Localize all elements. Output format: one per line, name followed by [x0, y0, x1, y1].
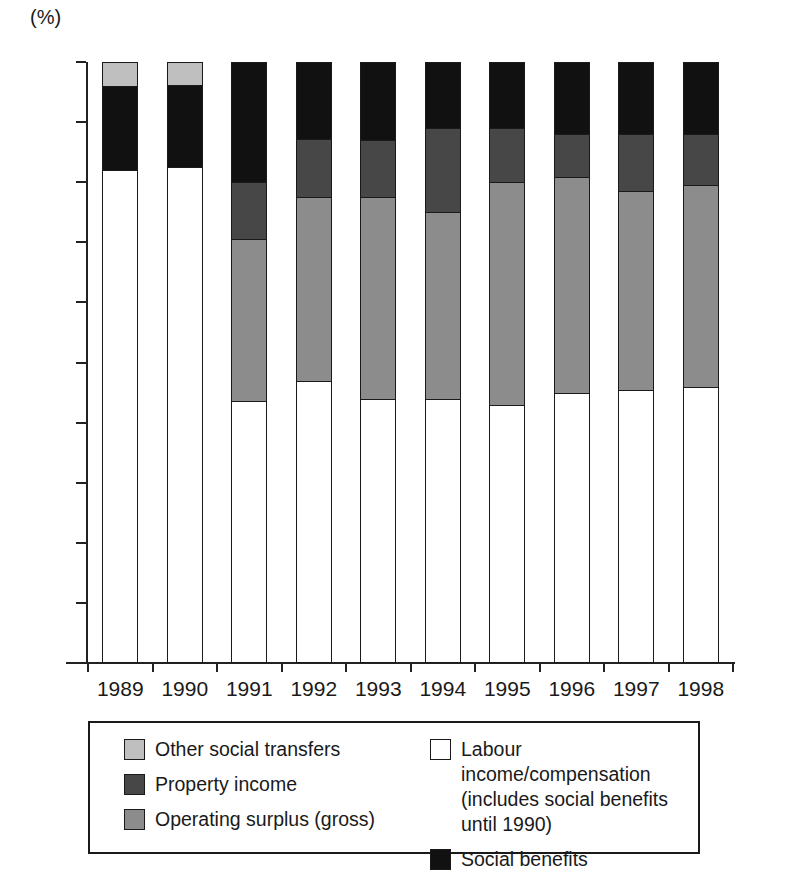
legend-label-social_benefits: Social benefits — [461, 847, 588, 872]
legend-column-left: Other social transfersProperty incomeOpe… — [124, 737, 404, 842]
y-axis-unit-label: (%) — [30, 6, 61, 29]
legend-entry-labour_income: Labour income/compensation (includes soc… — [430, 737, 692, 837]
bar-segment — [683, 134, 719, 185]
y-axis-tick-mark — [76, 362, 86, 364]
bar-group — [102, 62, 138, 663]
legend-label-property_income: Property income — [155, 772, 297, 797]
bar-segment — [360, 399, 396, 663]
bar-segment — [618, 390, 654, 663]
x-axis-tick-label: 1998 — [656, 676, 746, 702]
bar-segment — [683, 185, 719, 386]
bar-segment — [618, 191, 654, 389]
bar-group — [489, 62, 525, 663]
bar-segment — [360, 197, 396, 398]
bar-group — [683, 62, 719, 663]
x-axis-tick-mark — [732, 662, 734, 672]
bar-group — [296, 62, 332, 663]
bar-segment — [167, 85, 203, 167]
y-axis-tick-mark — [76, 422, 86, 424]
bar-segment — [102, 62, 138, 86]
bar-segment — [489, 405, 525, 663]
y-axis-tick-mark — [76, 662, 86, 664]
y-axis-tick-mark — [76, 301, 86, 303]
legend-entry-operating_surplus: Operating surplus (gross) — [124, 807, 404, 832]
x-axis-tick-mark — [281, 662, 283, 672]
legend-swatch-labour_income — [430, 739, 451, 760]
x-axis-tick-mark — [152, 662, 154, 672]
stacked-bar-chart: (%) 1009080706050403020100 1989199019911… — [0, 0, 789, 880]
bar-segment — [231, 401, 267, 663]
bar-group — [167, 62, 203, 663]
bar-segment — [489, 128, 525, 182]
bar-segment — [489, 62, 525, 128]
bar-segment — [231, 182, 267, 239]
x-axis-tick-mark — [345, 662, 347, 672]
bar-segment — [554, 177, 590, 392]
bar-segment — [296, 381, 332, 663]
bar-segment — [618, 134, 654, 191]
legend-entry-social_benefits: Social benefits — [430, 847, 692, 872]
legend-label-other_social_transfers: Other social transfers — [155, 737, 340, 762]
bar-segment — [296, 62, 332, 139]
legend-column-right: Labour income/compensation (includes soc… — [430, 737, 692, 880]
y-axis-tick-mark — [76, 181, 86, 183]
legend-swatch-property_income — [124, 774, 145, 795]
bar-segment — [167, 62, 203, 85]
bar-group — [618, 62, 654, 663]
bar-segment — [425, 128, 461, 212]
legend-swatch-social_benefits — [430, 849, 451, 870]
bar-group — [231, 62, 267, 663]
x-axis-tick-mark — [474, 662, 476, 672]
bar-segment — [554, 134, 590, 177]
bar-segment — [102, 170, 138, 663]
bar-segment — [618, 62, 654, 134]
bar-segment — [296, 139, 332, 197]
bar-segment — [425, 62, 461, 128]
legend-swatch-other_social_transfers — [124, 739, 145, 760]
y-axis-tick-mark — [76, 241, 86, 243]
bar-segment — [683, 62, 719, 134]
bar-segment — [296, 197, 332, 380]
bar-segment — [231, 62, 267, 182]
x-axis-tick-mark — [216, 662, 218, 672]
bar-segment — [360, 62, 396, 140]
bar-segment — [360, 140, 396, 197]
legend-label-labour_income: Labour income/compensation (includes soc… — [461, 737, 692, 837]
bar-segment — [425, 212, 461, 399]
plot-area — [88, 62, 733, 663]
y-axis-tick-mark — [76, 61, 86, 63]
legend-entry-property_income: Property income — [124, 772, 404, 797]
x-axis-tick-mark — [603, 662, 605, 672]
bar-group — [425, 62, 461, 663]
bar-segment — [489, 182, 525, 405]
bar-segment — [231, 239, 267, 401]
bar-group — [360, 62, 396, 663]
y-axis-tick-mark — [76, 482, 86, 484]
bar-segment — [425, 399, 461, 663]
bar-segment — [167, 167, 203, 663]
x-axis-tick-mark — [410, 662, 412, 672]
bar-segment — [683, 387, 719, 663]
x-axis-tick-mark — [87, 662, 89, 672]
legend-label-operating_surplus: Operating surplus (gross) — [155, 807, 375, 832]
legend-entry-other_social_transfers: Other social transfers — [124, 737, 404, 762]
bar-segment — [554, 62, 590, 134]
bar-segment — [102, 86, 138, 170]
x-axis-tick-mark — [668, 662, 670, 672]
bar-segment — [554, 393, 590, 663]
x-axis-tick-mark — [539, 662, 541, 672]
chart-legend: Other social transfersProperty incomeOpe… — [88, 721, 700, 854]
legend-swatch-operating_surplus — [124, 809, 145, 830]
y-axis-tick-mark — [76, 602, 86, 604]
bar-group — [554, 62, 590, 663]
y-axis-tick-mark — [76, 542, 86, 544]
y-axis-tick-mark — [76, 121, 86, 123]
